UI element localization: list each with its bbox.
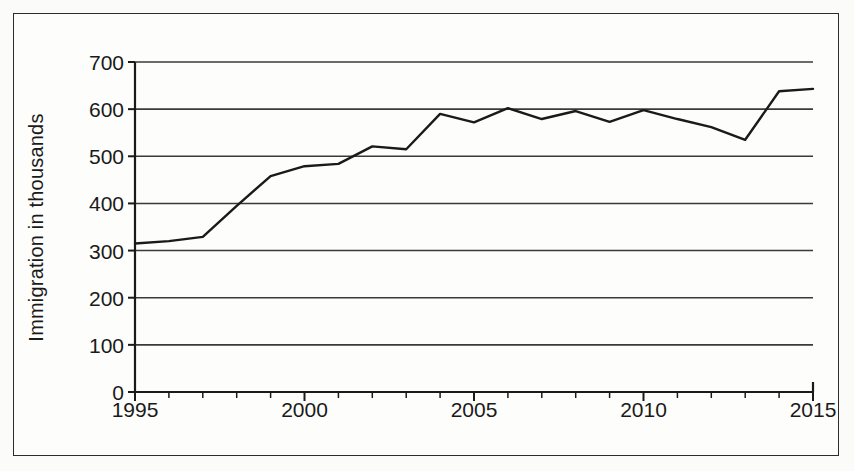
- y-tick-label-700: 700: [89, 52, 124, 73]
- y-tick-label-100: 100: [89, 335, 124, 356]
- series-line-immigration: [135, 89, 813, 244]
- chart-figure: Immigration in thousands 010020030040050…: [0, 0, 854, 471]
- gridlines: [135, 62, 813, 345]
- plot-area: [135, 62, 813, 392]
- x-tick-label-2015: 2015: [790, 399, 837, 420]
- y-tick-label-200: 200: [89, 288, 124, 309]
- axis-lines: [135, 62, 813, 392]
- x-tick-label-1995: 1995: [112, 399, 159, 420]
- y-axis-title-text: Immigration in thousands: [25, 113, 48, 341]
- data-series-immigration: [135, 89, 813, 244]
- y-tick-label-600: 600: [89, 99, 124, 120]
- x-tick-label-2010: 2010: [620, 399, 667, 420]
- chart-svg: [135, 62, 813, 392]
- y-tick-label-400: 400: [89, 193, 124, 214]
- x-axis-tick-labels: 19952000200520102015: [135, 399, 813, 431]
- x-tick-label-2005: 2005: [451, 399, 498, 420]
- y-tick-label-300: 300: [89, 241, 124, 262]
- y-tick-label-500: 500: [89, 146, 124, 167]
- y-axis-title: Immigration in thousands: [22, 62, 50, 392]
- x-tick-label-2000: 2000: [281, 399, 328, 420]
- y-axis-tick-labels: 0100200300400500600700: [58, 62, 124, 392]
